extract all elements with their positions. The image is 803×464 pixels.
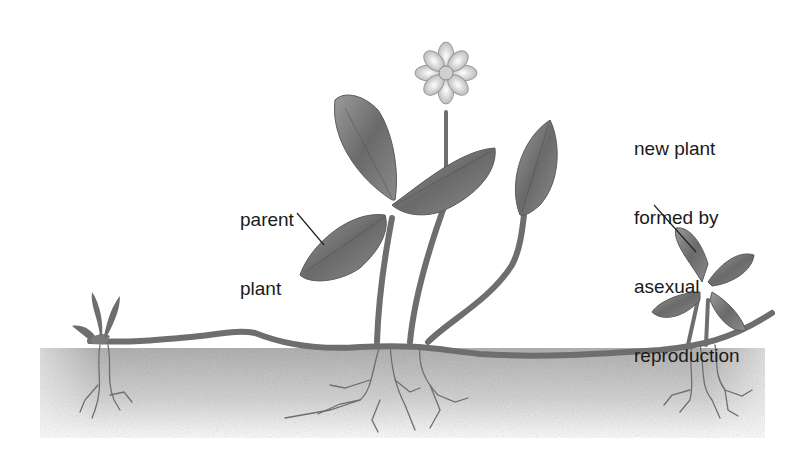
label-line: formed by (634, 206, 740, 229)
young-seedling (72, 292, 120, 344)
parent-plant-label: parent plant (240, 162, 294, 323)
parent-plant-stems (377, 112, 524, 342)
new-plant-label: new plant formed by asexual reproduction (634, 91, 740, 390)
label-line: plant (240, 277, 294, 300)
label-line: new plant (634, 137, 740, 160)
label-line: reproduction (634, 344, 740, 367)
parent-plant-pointer (297, 213, 324, 245)
flower (415, 42, 477, 104)
label-line: asexual (634, 275, 740, 298)
label-line: parent (240, 208, 294, 231)
